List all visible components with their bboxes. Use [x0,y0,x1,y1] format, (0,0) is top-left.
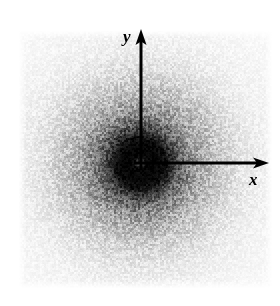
speckle-image [0,0,280,306]
speckle-intensity-field [0,0,280,306]
scattering-figure: y x [0,0,280,306]
y-axis-label: y [123,28,131,45]
x-axis-label: x [249,171,258,188]
